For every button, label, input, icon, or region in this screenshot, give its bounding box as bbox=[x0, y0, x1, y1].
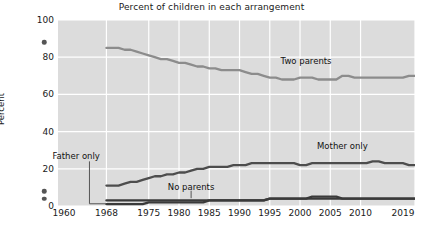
series-line-no-parents bbox=[106, 199, 415, 201]
annotation-no-parents: No parents bbox=[168, 182, 215, 192]
x-tick-label: 1985 bbox=[198, 208, 221, 218]
series-lines bbox=[106, 48, 415, 204]
isolated-1960-points bbox=[30, 20, 58, 206]
annotation-mother-only: Mother only bbox=[317, 141, 368, 151]
x-tick-label: 1968 bbox=[95, 208, 118, 218]
x-tick-label: 2010 bbox=[349, 208, 372, 218]
plot-svg bbox=[58, 20, 415, 206]
x-tick-label: 2019 bbox=[392, 208, 415, 218]
x-tick-label: 1995 bbox=[258, 208, 281, 218]
x-tick-label: 1960 bbox=[53, 208, 76, 218]
annotation-two-parents: Two parents bbox=[281, 56, 332, 66]
data-point-1960-mother-only bbox=[42, 189, 47, 194]
y-axis-title: Percent bbox=[0, 74, 6, 144]
x-tick-label: 1990 bbox=[228, 208, 251, 218]
x-tick-label: 1980 bbox=[168, 208, 191, 218]
data-point-1960-no-parents bbox=[42, 196, 47, 201]
x-axis-tick-labels: 1960196819751980198519901995200020052010… bbox=[58, 208, 415, 222]
data-point-1960-two-parents bbox=[42, 40, 47, 45]
x-tick-label: 2000 bbox=[289, 208, 312, 218]
chart-container: Percent of children in each arrangement … bbox=[0, 0, 423, 228]
series-line-two-parents bbox=[106, 48, 415, 80]
plot-area: Two parentsMother onlyFather onlyNo pare… bbox=[58, 20, 415, 206]
x-tick-label: 2005 bbox=[319, 208, 342, 218]
annotation-father-only: Father only bbox=[52, 151, 99, 161]
leader-line-father-only bbox=[89, 161, 106, 203]
chart-title: Percent of children in each arrangement bbox=[0, 2, 423, 12]
series-line-mother-only bbox=[106, 161, 415, 185]
x-tick-label: 1975 bbox=[137, 208, 160, 218]
